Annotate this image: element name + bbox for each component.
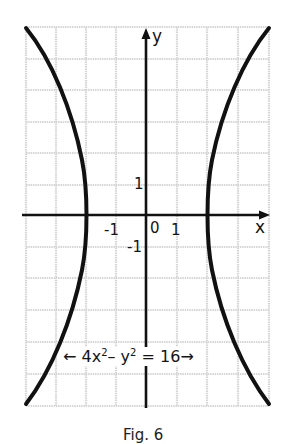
x-tick-1: 1 [171, 223, 181, 238]
equation-label: ← 4x2– y2 = 16→ [62, 347, 195, 366]
figure-caption: Fig. 6 [123, 426, 163, 444]
y-tick-1: 1 [134, 177, 144, 192]
x-axis-label: x [255, 219, 265, 236]
y-tick-neg1: -1 [127, 240, 142, 255]
left-arrow-icon: ← [63, 347, 76, 366]
right-arrow-icon: → [180, 347, 193, 366]
y-axis-label: y [152, 28, 162, 45]
y-axis-arrow-icon [142, 28, 151, 39]
x-tick-neg1: -1 [104, 223, 119, 238]
origin-label: 0 [150, 221, 160, 236]
